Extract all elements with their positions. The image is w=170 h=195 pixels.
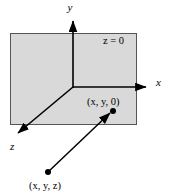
- diagram-canvas: y x z z = 0 (x, y, 0) (x, y, z): [0, 0, 170, 195]
- y-axis-label: y: [67, 1, 73, 13]
- x-axis-label: x: [155, 76, 161, 88]
- point-xyz-dot: [45, 169, 51, 175]
- coordinate-diagram: y x z z = 0 (x, y, 0) (x, y, z): [0, 0, 170, 195]
- point-xy0-dot: [110, 108, 116, 114]
- plane-label: z = 0: [103, 35, 124, 46]
- point-xy0-label: (x, y, 0): [87, 96, 120, 108]
- point-xyz-label: (x, y, z): [29, 180, 61, 192]
- z-axis-label: z: [9, 140, 15, 152]
